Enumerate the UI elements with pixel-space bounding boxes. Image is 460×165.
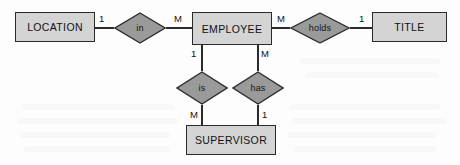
cardinality-employee-has: M xyxy=(261,49,269,59)
cardinality-holds-title: 1 xyxy=(359,14,364,24)
entity-supervisor-label: SUPERVISOR xyxy=(195,134,267,146)
entity-supervisor[interactable]: SUPERVISOR xyxy=(186,125,276,155)
entity-location-label: LOCATION xyxy=(27,21,83,33)
relationship-in-label: in xyxy=(136,23,143,33)
entity-title-label: TITLE xyxy=(394,21,424,33)
cardinality-is-supervisor: M xyxy=(190,110,198,120)
entity-title[interactable]: TITLE xyxy=(372,12,447,42)
cardinality-location-in: 1 xyxy=(99,14,104,24)
entity-employee[interactable]: EMPLOYEE xyxy=(192,12,272,45)
cardinality-has-supervisor: 1 xyxy=(262,110,267,120)
relationship-has[interactable]: has xyxy=(232,71,284,105)
cardinality-employee-is: 1 xyxy=(191,49,196,59)
relationship-is[interactable]: is xyxy=(176,71,228,105)
er-diagram-canvas: LOCATION EMPLOYEE TITLE SUPERVISOR in ho… xyxy=(0,0,460,165)
entity-location[interactable]: LOCATION xyxy=(15,12,95,42)
relationship-in[interactable]: in xyxy=(114,12,166,44)
relationship-holds[interactable]: holds xyxy=(290,12,350,44)
entity-employee-label: EMPLOYEE xyxy=(202,23,263,35)
cardinality-employee-holds: M xyxy=(277,14,285,24)
cardinality-in-employee: M xyxy=(174,14,182,24)
relationship-is-label: is xyxy=(199,83,206,93)
relationship-has-label: has xyxy=(250,83,265,93)
relationship-holds-label: holds xyxy=(309,23,332,33)
